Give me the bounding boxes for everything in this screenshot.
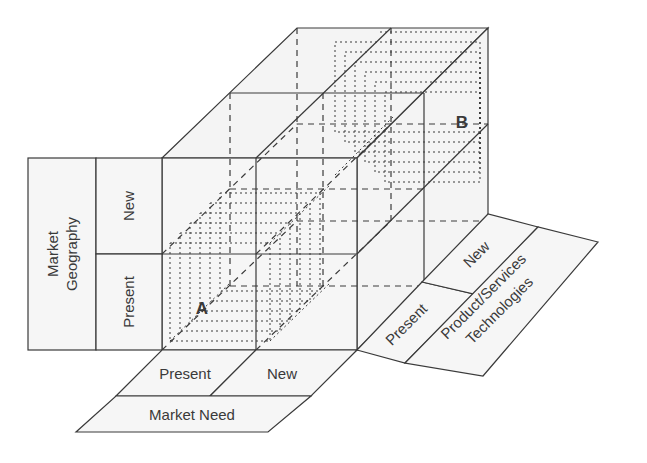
- market-need-title: Market Need: [149, 406, 235, 423]
- market-need-new-label: New: [267, 365, 297, 382]
- market-geography-title-line1: Market: [44, 230, 61, 277]
- market-geography-present-label: Present: [120, 275, 137, 328]
- point-b-label: B: [456, 113, 468, 132]
- market-cube-diagram: Market Geography New Present Present New…: [0, 0, 647, 463]
- market-geography-new-label: New: [120, 191, 137, 221]
- point-a-label: A: [196, 299, 208, 318]
- market-need-present-label: Present: [159, 365, 212, 382]
- market-geography-title-box: [28, 158, 96, 350]
- market-geography-title-line2: Geography: [63, 216, 80, 291]
